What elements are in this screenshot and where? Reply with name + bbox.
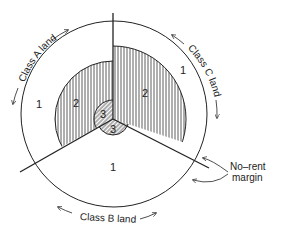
no-rent-arrow-lower	[193, 174, 228, 182]
class-c-land-label: Class C land	[186, 42, 223, 98]
class-b-label-1: 1	[110, 161, 116, 173]
class-b-arrow-left	[58, 207, 72, 213]
class-a-label-2: 2	[73, 97, 79, 109]
no-rent-margin-label-line1: No–rent	[230, 161, 266, 172]
class-b-arrow-right	[140, 213, 156, 219]
class-c-arrow-down	[216, 100, 217, 118]
no-rent-margin-label-line2: margin	[232, 172, 263, 183]
class-a-label-1: 1	[36, 98, 42, 110]
class-a-arrow-left	[13, 88, 18, 104]
class-c-label-1: 1	[180, 64, 186, 76]
class-b-land-label: Class B land	[80, 211, 137, 225]
land-rent-diagram: 1 2 3 3 1 2 1 Class A land Class C land …	[0, 0, 282, 239]
class-b-label-3: 3	[110, 123, 116, 135]
class-c-label-2: 2	[142, 87, 148, 99]
no-rent-arrow-upper	[203, 158, 228, 172]
class-a-label-3: 3	[100, 108, 106, 120]
